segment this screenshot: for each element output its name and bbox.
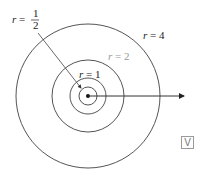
label-r-half-prefix: r = (12, 13, 25, 25)
polar-circles-diagram: r = 1 2 r = 1 r = 2 r = 4 V (0, 0, 204, 176)
leader-line-r-half (38, 33, 81, 88)
diagram-canvas: r = 1 2 r = 1 r = 2 r = 4 (0, 0, 204, 176)
label-r-half-den: 2 (33, 19, 39, 31)
label-r-4: r = 4 (143, 29, 165, 41)
label-r-2: r = 2 (108, 50, 130, 62)
logo-badge: V (181, 136, 194, 149)
label-r-half-num: 1 (33, 7, 39, 19)
label-r-1: r = 1 (79, 68, 101, 80)
